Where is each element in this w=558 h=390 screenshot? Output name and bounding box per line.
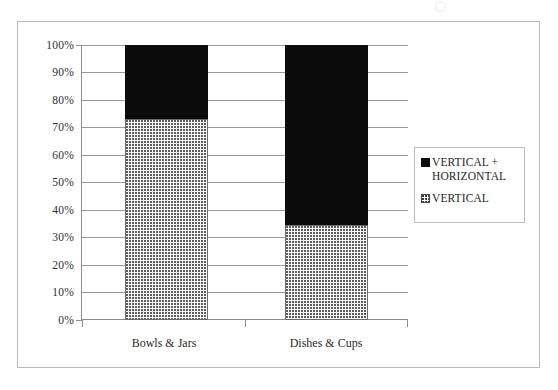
y-tick-label: 60% <box>26 149 74 161</box>
chart-figure: 100% 90% 80% 70% 60% 50% 40% 30% 20% 10%… <box>0 0 558 390</box>
bar-segment-vertical-plus-horizontal[interactable] <box>285 45 368 225</box>
y-tick-label: 20% <box>26 259 74 271</box>
scan-artifact-icon <box>435 1 446 12</box>
y-tick-mark <box>76 45 81 46</box>
plot-area <box>82 45 408 320</box>
bar-segment-vertical-plus-horizontal[interactable] <box>125 45 208 119</box>
y-axis-tick-labels: 100% 90% 80% 70% 60% 50% 40% 30% 20% 10%… <box>14 0 74 390</box>
y-tick-label: 0% <box>26 314 74 326</box>
x-tick-label-dishes-and-cups: Dishes & Cups <box>246 336 406 351</box>
black-square-icon <box>421 158 430 167</box>
bar-segment-vertical[interactable] <box>285 225 368 320</box>
y-tick-label: 100% <box>26 39 74 51</box>
y-tick-label: 80% <box>26 94 74 106</box>
legend-item-vertical-plus-horizontal[interactable]: VERTICAL + HORIZONTAL <box>421 155 506 183</box>
bar-segment-vertical[interactable] <box>125 119 208 320</box>
legend-label: VERTICAL + HORIZONTAL <box>432 155 506 183</box>
y-tick-label: 90% <box>26 66 74 78</box>
y-tick-label: 40% <box>26 204 74 216</box>
y-tick-label: 10% <box>26 286 74 298</box>
bar-dishes-and-cups[interactable] <box>285 45 368 320</box>
legend-item-vertical[interactable]: VERTICAL <box>421 191 489 205</box>
y-tick-label: 70% <box>26 121 74 133</box>
legend-label: VERTICAL <box>432 191 489 205</box>
dotted-square-icon <box>421 194 430 203</box>
y-tick-label: 30% <box>26 231 74 243</box>
bar-bowls-and-jars[interactable] <box>125 45 208 320</box>
y-tick-mark <box>76 320 81 321</box>
y-tick-label: 50% <box>26 176 74 188</box>
chart-legend: VERTICAL + HORIZONTAL VERTICAL <box>414 147 525 223</box>
x-tick-mark <box>82 320 83 327</box>
x-tick-mark <box>407 320 408 327</box>
x-tick-mark <box>245 320 246 327</box>
x-tick-label-bowls-and-jars: Bowls & Jars <box>84 336 244 351</box>
